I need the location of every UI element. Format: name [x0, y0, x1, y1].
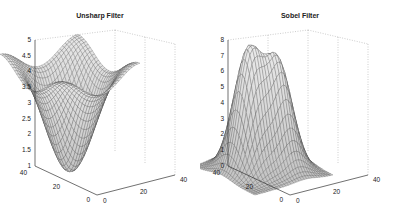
svg-text:1: 1 — [220, 146, 224, 153]
svg-text:40: 40 — [373, 176, 381, 183]
unsharp-filter-plot: Unsharp Filter 5 4.5 4 3.5 3 2.5 2 1. — [0, 0, 200, 216]
svg-text:20: 20 — [246, 183, 254, 190]
svg-text:4.5: 4.5 — [22, 52, 31, 59]
sobel-surface-svg: Sobel Filter 8 7 6 5 4 3 2 1 0 — [200, 0, 401, 216]
svg-text:5: 5 — [220, 83, 224, 90]
sobel-filter-plot: Sobel Filter 8 7 6 5 4 3 2 1 0 — [200, 0, 401, 216]
svg-text:20: 20 — [140, 188, 148, 195]
svg-text:40: 40 — [213, 169, 221, 176]
unsharp-surface-svg: Unsharp Filter 5 4.5 4 3.5 3 2.5 2 1. — [0, 0, 200, 216]
svg-text:0: 0 — [220, 162, 224, 169]
z-tick-labels: 5 4.5 4 3.5 3 2.5 2 1.5 1 — [22, 36, 31, 169]
svg-text:20: 20 — [53, 183, 61, 190]
svg-text:2.5: 2.5 — [22, 115, 31, 122]
svg-text:8: 8 — [220, 36, 224, 43]
y-tick-labels: 40 20 0 — [20, 169, 91, 203]
svg-text:4: 4 — [220, 99, 224, 106]
svg-text:3: 3 — [220, 115, 224, 122]
svg-text:0: 0 — [296, 197, 300, 204]
svg-text:3.5: 3.5 — [22, 83, 31, 90]
svg-text:1.5: 1.5 — [22, 146, 31, 153]
svg-text:40: 40 — [180, 176, 188, 183]
plot-title: Sobel Filter — [281, 12, 319, 19]
z-tick-labels: 8 7 6 5 4 3 2 1 0 — [220, 36, 224, 169]
svg-text:20: 20 — [333, 188, 341, 195]
svg-text:40: 40 — [20, 169, 28, 176]
svg-text:0: 0 — [279, 196, 283, 203]
svg-text:7: 7 — [220, 52, 224, 59]
svg-text:4: 4 — [27, 67, 31, 74]
svg-text:3: 3 — [27, 99, 31, 106]
svg-text:2: 2 — [27, 130, 31, 137]
plot-title: Unsharp Filter — [76, 12, 124, 20]
svg-text:0: 0 — [103, 197, 107, 204]
svg-text:1: 1 — [27, 162, 31, 169]
svg-text:0: 0 — [86, 196, 90, 203]
svg-text:6: 6 — [220, 67, 224, 74]
svg-text:5: 5 — [27, 36, 31, 43]
svg-text:2: 2 — [220, 130, 224, 137]
